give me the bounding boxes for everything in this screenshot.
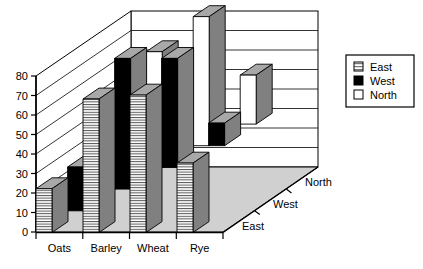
y-axis: 0 10 20 30 40 50 60 70 80 bbox=[16, 70, 36, 238]
bar-chart-3d: 0 10 20 30 40 50 60 70 80 bbox=[0, 0, 423, 269]
bar-barley-east[interactable] bbox=[83, 88, 115, 232]
bar-oats-east[interactable] bbox=[36, 178, 68, 233]
x-category-label-barley: Barley bbox=[91, 242, 123, 254]
legend-label-north: North bbox=[370, 89, 397, 101]
bar-rye-east[interactable] bbox=[177, 152, 209, 232]
x-axis: Oats Barley Wheat Rye bbox=[36, 233, 223, 255]
depth-label-west: West bbox=[273, 198, 298, 210]
depth-label-east: East bbox=[242, 220, 264, 232]
legend-entry-west[interactable]: West bbox=[354, 75, 395, 87]
y-tick-label-0: 0 bbox=[22, 226, 28, 238]
legend-entry-east[interactable]: East bbox=[354, 61, 392, 73]
bar-wheat-east[interactable] bbox=[130, 84, 162, 232]
hatch-swatch-icon bbox=[354, 62, 363, 71]
x-axis-ticks bbox=[36, 233, 223, 240]
y-tick-label-40: 40 bbox=[16, 148, 28, 160]
bar-wheat-west[interactable] bbox=[162, 48, 194, 168]
legend[interactable]: East West North bbox=[346, 55, 414, 107]
y-tick-label-30: 30 bbox=[16, 168, 28, 180]
y-tick-label-20: 20 bbox=[16, 187, 28, 199]
depth-label-north: North bbox=[305, 176, 332, 188]
white-swatch-icon bbox=[354, 90, 363, 99]
x-category-label-rye: Rye bbox=[190, 242, 210, 254]
legend-entry-north[interactable]: North bbox=[354, 89, 397, 101]
black-swatch-icon bbox=[354, 76, 363, 85]
chart-container: 0 10 20 30 40 50 60 70 80 bbox=[0, 0, 423, 269]
x-category-label-wheat: Wheat bbox=[137, 242, 169, 254]
x-category-label-oats: Oats bbox=[48, 242, 72, 254]
y-tick-label-80: 80 bbox=[16, 70, 28, 82]
legend-label-west: West bbox=[370, 75, 395, 87]
bar-rye-north[interactable] bbox=[240, 64, 272, 124]
y-tick-label-60: 60 bbox=[16, 109, 28, 121]
y-tick-label-10: 10 bbox=[16, 207, 28, 219]
legend-label-east: East bbox=[370, 61, 392, 73]
y-tick-label-70: 70 bbox=[16, 90, 28, 102]
y-tick-label-50: 50 bbox=[16, 129, 28, 141]
